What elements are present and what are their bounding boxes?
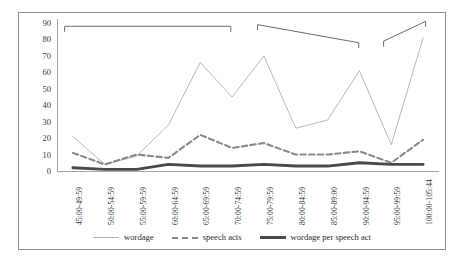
x-axis-tick-5: 70:00-74:59 (235, 187, 243, 225)
chart-figure: 9080706050403020100 45:00-49:5950:00-54:… (0, 0, 465, 265)
bracket-3 (384, 21, 426, 46)
x-axis-tick-4: 65:00-69:59 (203, 187, 211, 225)
x-axis-tick-0: 45:00-49:59 (76, 187, 84, 225)
x-axis-tick-9: 90:00-94:59 (363, 187, 371, 225)
x-axis-tick-1: 50:00-54:59 (108, 187, 116, 225)
legend-item-speech-acts[interactable]: speech acts (172, 233, 242, 242)
x-axis-tick-11: 100:00-105:44 (426, 179, 434, 225)
legend-item-wordage-per-speech-act[interactable]: wordage per speech act (260, 233, 371, 242)
bracket-1 (65, 26, 231, 32)
chart-legend: wordagespeech actswordage per speech act (19, 233, 445, 242)
dashed-line-icon (172, 237, 198, 239)
chart-plot-frame: 9080706050403020100 45:00-49:5950:00-54:… (18, 12, 446, 250)
legend-item-wordage[interactable]: wordage (93, 233, 154, 242)
x-axis-tick-2: 55:00-59:59 (140, 187, 148, 225)
x-axis-tick-6: 75:00-79:59 (267, 187, 275, 225)
thin-line-icon (93, 237, 119, 238)
x-axis-line (57, 171, 439, 172)
bracket-2 (258, 25, 359, 49)
legend-label: wordage per speech act (291, 233, 371, 242)
legend-label: speech acts (203, 233, 242, 242)
thick-line-icon (260, 236, 286, 239)
series-line-wordage-per-speech-act (73, 163, 423, 170)
x-axis-tick-7: 80:00-84:59 (299, 187, 307, 225)
x-axis-tick-3: 60:00-64:59 (172, 187, 180, 225)
legend-label: wordage (124, 233, 154, 242)
x-axis-tick-8: 85:00-89:00 (331, 187, 339, 225)
series-line-speech-acts (73, 135, 423, 165)
y-axis-line (57, 19, 58, 171)
x-axis-tick-10: 95:00-99:59 (394, 187, 402, 225)
